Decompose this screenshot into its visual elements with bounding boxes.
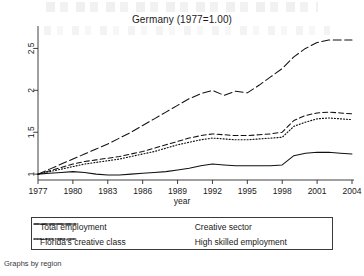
x-tick-label: 1986 [133, 186, 152, 196]
x-axis-label: year [0, 196, 364, 206]
x-tick-label: 1992 [203, 186, 222, 196]
legend-item-creative-sector: Creative sector [195, 219, 332, 235]
x-tick-label: 1983 [98, 186, 117, 196]
y-tick-label: 1 [26, 172, 36, 177]
x-tick-label: 1995 [238, 186, 257, 196]
series-line-florida-s-creative-class [38, 118, 352, 174]
legend-label: Creative sector [195, 222, 252, 232]
legend-row: Florida's creative class High skilled em… [32, 234, 332, 250]
x-tick-label: 1989 [168, 186, 187, 196]
x-tick-group: 1977198019831986198919921995199820012004 [29, 180, 362, 196]
x-tick-label: 1998 [273, 186, 292, 196]
series-line-creative-sector [38, 112, 352, 174]
legend-swatch-dashed [32, 219, 78, 229]
y-tick-label: 2.5 [26, 42, 36, 54]
series-group [38, 40, 352, 175]
y-tick-label: 1.5 [26, 126, 36, 138]
x-tick-label: 2004 [343, 186, 362, 196]
series-line-high-skilled-employment [38, 40, 352, 174]
legend-item-high-skilled-employment: High skilled employment [195, 234, 332, 250]
legend-swatch-longdashdot [32, 234, 78, 244]
figure-caption: Graphs by region [4, 259, 62, 268]
axes-group: 11.522.5 1977198019831986198919921995199… [26, 26, 362, 196]
x-tick-label: 1980 [63, 186, 82, 196]
chart-figure: Germany (1977=1.00) 11.522.5 19771980198… [0, 0, 364, 276]
x-tick-label: 2001 [308, 186, 327, 196]
y-tick-label: 2 [26, 88, 36, 93]
y-tick-group: 11.522.5 [26, 42, 38, 176]
x-tick-label: 1977 [29, 186, 48, 196]
legend-row: Total employment Creative sector [32, 219, 332, 235]
legend-label: High skilled employment [195, 237, 287, 247]
legend: Total employment Creative sector Florida… [31, 217, 333, 250]
